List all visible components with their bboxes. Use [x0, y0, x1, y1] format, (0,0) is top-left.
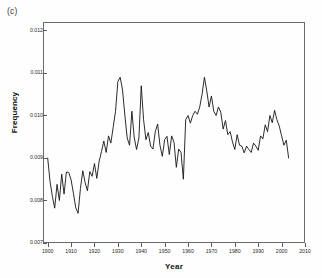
- x-tick-mark: [235, 243, 236, 247]
- x-tick-mark: [94, 243, 95, 247]
- y-tick-mark: [43, 158, 47, 159]
- x-tick-mark: [258, 243, 259, 247]
- y-tick: 0.010: [0, 112, 43, 120]
- y-tick-label: 0.008: [9, 197, 43, 203]
- x-tick-label: 2010: [285, 248, 322, 254]
- y-tick: 0.007: [0, 239, 43, 247]
- x-axis-title: Year: [43, 262, 305, 271]
- y-tick-mark: [43, 243, 47, 244]
- y-tick-mark: [43, 30, 47, 31]
- x-tick-mark: [282, 243, 283, 247]
- y-tick-mark: [43, 115, 47, 116]
- frequency-line: [48, 77, 289, 213]
- y-tick: 0.011: [0, 69, 43, 77]
- y-tick: 0.009: [0, 154, 43, 162]
- x-tick-mark: [305, 243, 306, 247]
- y-tick-label: 0.007: [9, 239, 43, 245]
- y-tick-mark: [43, 73, 47, 74]
- line-chart: [43, 22, 305, 243]
- x-tick-mark: [118, 243, 119, 247]
- figure-panel-c: (c) 0.0070.0080.0090.0100.0110.012 19001…: [0, 0, 322, 278]
- x-tick-mark: [141, 243, 142, 247]
- x-tick-mark: [71, 243, 72, 247]
- y-tick-label: 0.009: [9, 154, 43, 160]
- x-tick-mark: [188, 243, 189, 247]
- x-tick-mark: [211, 243, 212, 247]
- panel-label: (c): [7, 6, 18, 16]
- y-tick-label: 0.012: [9, 27, 43, 33]
- x-tick-mark: [165, 243, 166, 247]
- y-axis-title: Frequency: [10, 73, 19, 153]
- y-tick-mark: [43, 200, 47, 201]
- x-tick-mark: [48, 243, 49, 247]
- y-tick: 0.012: [0, 27, 43, 35]
- y-tick: 0.008: [0, 197, 43, 205]
